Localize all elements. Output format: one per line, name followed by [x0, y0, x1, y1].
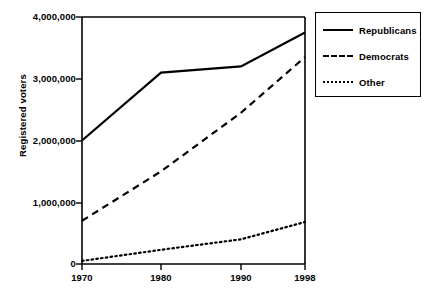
legend-label: Republicans: [359, 25, 417, 36]
legend-dashed-line-icon: [323, 50, 353, 62]
series-line-other: [82, 222, 305, 261]
chart-figure: Registered voters 4,000,000 3,000,000 2,…: [0, 0, 433, 299]
legend-dotted-line-icon: [323, 76, 353, 88]
chart-legend: Republicans Democrats Other: [315, 12, 421, 97]
legend-solid-line-icon: [323, 24, 353, 36]
y-tick-marks: [76, 17, 82, 264]
legend-item-other: Other: [323, 75, 385, 89]
legend-label: Other: [359, 77, 385, 88]
legend-label: Democrats: [359, 51, 409, 62]
series-line-democrats: [82, 57, 305, 221]
x-tick-marks: [82, 264, 305, 270]
legend-item-republicans: Republicans: [323, 23, 417, 37]
legend-item-democrats: Democrats: [323, 49, 409, 63]
